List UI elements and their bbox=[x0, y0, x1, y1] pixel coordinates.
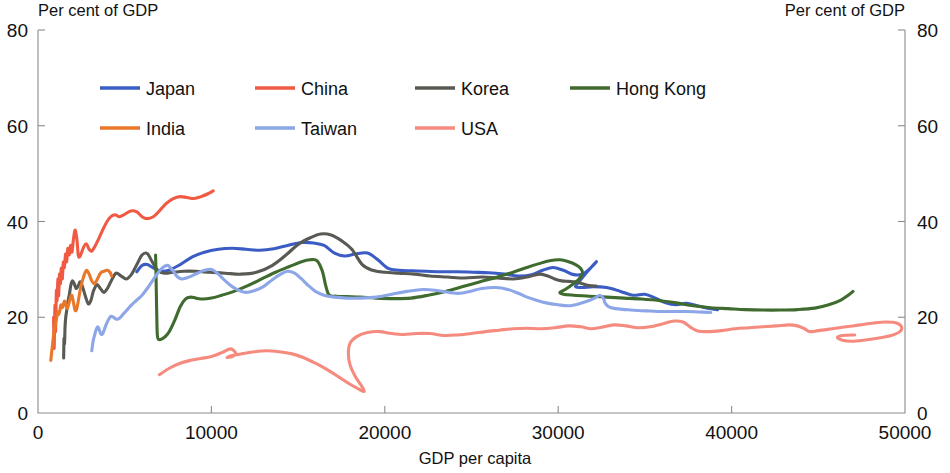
y-tick-label-left: 40 bbox=[7, 212, 28, 233]
series-lines bbox=[51, 191, 902, 392]
legend-item-hong-kong[interactable]: Hong Kong bbox=[570, 79, 706, 99]
left-axis-caption: Per cent of GDP bbox=[38, 1, 158, 19]
y-tick-label-right: 80 bbox=[917, 20, 938, 41]
legend-label: USA bbox=[461, 119, 498, 139]
legend-label: India bbox=[146, 119, 186, 139]
legend-label: Japan bbox=[146, 79, 195, 99]
legend-item-korea[interactable]: Korea bbox=[415, 79, 510, 99]
legend-label: Korea bbox=[461, 79, 510, 99]
y-tick-label-left: 20 bbox=[7, 307, 28, 328]
legend-item-japan[interactable]: Japan bbox=[100, 79, 195, 99]
y-tick-label-left: 60 bbox=[7, 116, 28, 137]
legend-label: China bbox=[301, 79, 349, 99]
series-line-taiwan bbox=[92, 265, 711, 350]
y-tick-label-left: 80 bbox=[7, 20, 28, 41]
series-line-usa bbox=[159, 321, 901, 392]
x-tick-label: 30000 bbox=[532, 422, 585, 443]
legend-label: Hong Kong bbox=[616, 79, 706, 99]
x-axis-title: GDP per capita bbox=[419, 449, 532, 467]
x-tick-label: 20000 bbox=[358, 422, 411, 443]
y-tick-label-right: 0 bbox=[917, 403, 928, 424]
chart-container: 0020204040606080800100002000030000400005… bbox=[0, 0, 950, 473]
y-tick-label-left: 0 bbox=[17, 403, 28, 424]
gdp-per-capita-line-chart: 0020204040606080800100002000030000400005… bbox=[0, 0, 950, 473]
chart-legend: JapanChinaKoreaHong KongIndiaTaiwanUSA bbox=[100, 79, 706, 139]
y-tick-label-right: 60 bbox=[917, 116, 938, 137]
x-tick-label: 10000 bbox=[185, 422, 238, 443]
legend-item-china[interactable]: China bbox=[255, 79, 349, 99]
y-tick-label-right: 40 bbox=[917, 212, 938, 233]
legend-item-taiwan[interactable]: Taiwan bbox=[255, 119, 357, 139]
legend-item-india[interactable]: India bbox=[100, 119, 186, 139]
legend-item-usa[interactable]: USA bbox=[415, 119, 498, 139]
right-axis-caption: Per cent of GDP bbox=[785, 1, 905, 19]
y-tick-label-right: 20 bbox=[917, 307, 938, 328]
x-tick-label: 0 bbox=[33, 422, 44, 443]
x-tick-label: 50000 bbox=[879, 422, 932, 443]
x-tick-label: 40000 bbox=[705, 422, 758, 443]
legend-label: Taiwan bbox=[301, 119, 357, 139]
